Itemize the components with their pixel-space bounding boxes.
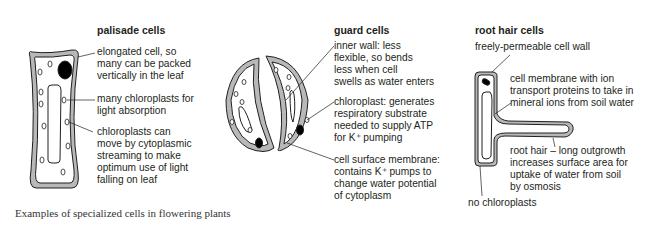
text-line: chloroplasts can [97, 126, 192, 138]
guard-label-membrane: cell surface membrane: contains K⁺ pumps… [334, 154, 440, 202]
root-hair-label-no-chloroplasts: no chloroplasts [468, 197, 537, 209]
text-line: optimum use of light [97, 162, 192, 174]
guard-cells-title: guard cells [334, 24, 389, 36]
text-line: of cytoplasm [334, 190, 440, 202]
text-line: cell surface membrane: [334, 154, 440, 166]
text-line: by osmosis [510, 181, 628, 193]
root-hair-label-outgrowth: root hair – long outgrowth increases sur… [510, 145, 628, 193]
text-line: many can be packed [97, 58, 191, 70]
text-line: root hair – long outgrowth [510, 145, 628, 157]
text-line: light absorption [97, 105, 194, 117]
text-line: cell membrane with ion [510, 73, 634, 85]
text-line: needed to supply ATP [334, 120, 434, 132]
text-line: many chloroplasts for [97, 93, 194, 105]
root-hair-label-wall: freely-permeable cell wall [475, 41, 590, 53]
guard-cells-drawing [226, 46, 334, 160]
text-line: vertically in the leaf [97, 70, 191, 82]
text-line: for K⁺ pumping [334, 132, 434, 144]
text-line: no chloroplasts [468, 197, 537, 209]
text-line: freely-permeable cell wall [475, 41, 590, 53]
palisade-cells-title: palisade cells [97, 24, 165, 36]
text-line: falling on leaf [97, 174, 192, 186]
text-line: change water potential [334, 178, 440, 190]
text-line: contains K⁺ pumps to [334, 166, 440, 178]
palisade-label-chloroplasts: many chloroplasts for light absorption [97, 93, 194, 117]
text-line: inner wall: less [334, 40, 434, 52]
text-line: chloroplast: generates [334, 96, 434, 108]
text-line: transport proteins to take in [510, 85, 634, 97]
text-line: swells as water enters [334, 76, 434, 88]
palisade-label-streaming: chloroplasts can move by cytoplasmic str… [97, 126, 192, 186]
text-line: mineral ions from soil water [510, 97, 634, 109]
guard-label-inner-wall: inner wall: less flexible, so bends less… [334, 40, 434, 88]
palisade-cell-drawing [29, 50, 95, 188]
text-line: increases surface area for [510, 157, 628, 169]
text-line: elongated cell, so [97, 46, 191, 58]
root-hair-label-membrane: cell membrane with ion transport protein… [510, 73, 634, 109]
palisade-label-elongated: elongated cell, so many can be packed ve… [97, 46, 191, 82]
guard-label-chloroplast: chloroplast: generates respiratory subst… [334, 96, 434, 144]
text-line: respiratory substrate [334, 108, 434, 120]
text-line: flexible, so bends [334, 52, 434, 64]
text-line: move by cytoplasmic [97, 138, 192, 150]
text-line: less when cell [334, 64, 434, 76]
text-line: streaming to make [97, 150, 192, 162]
root-hair-cells-title: root hair cells [475, 24, 544, 36]
figure-caption: Examples of specialized cells in floweri… [15, 207, 231, 219]
text-line: uptake of water from soil [510, 169, 628, 181]
